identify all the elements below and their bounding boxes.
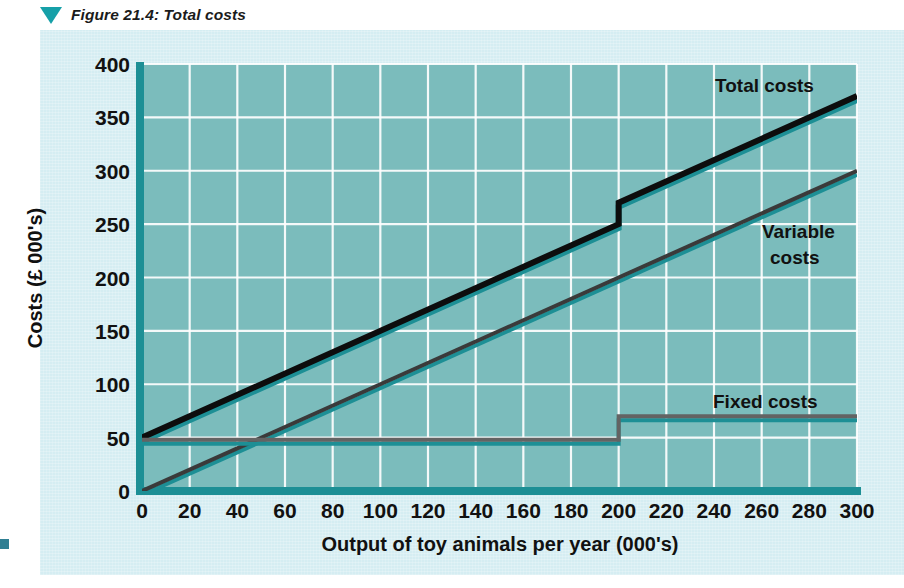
y-tick-label-300: 300: [95, 160, 130, 183]
x-tick-label-0: 0: [136, 499, 148, 522]
series-label-variable-costs-line1: Variable: [762, 221, 835, 242]
x-axis-tick-labels: 0204060801001201401601802002202402602803…: [136, 499, 874, 522]
x-tick-label-180: 180: [553, 499, 588, 522]
x-tick-label-240: 240: [696, 499, 731, 522]
x-tick-label-200: 200: [601, 499, 636, 522]
series-label-fixed-costs: Fixed costs: [713, 391, 818, 412]
y-tick-label-0: 0: [118, 480, 130, 503]
x-tick-label-280: 280: [792, 499, 827, 522]
y-tick-label-350: 350: [95, 106, 130, 129]
x-tick-label-140: 140: [458, 499, 493, 522]
y-axis-tick-labels: 050100150200250300350400: [95, 53, 130, 503]
x-tick-label-120: 120: [410, 499, 445, 522]
y-tick-label-400: 400: [95, 53, 130, 76]
series-label-variable-costs-line2: costs: [770, 247, 820, 268]
y-tick-label-200: 200: [95, 267, 130, 290]
x-axis-line: [136, 487, 861, 495]
y-tick-label-50: 50: [107, 427, 130, 450]
x-tick-label-60: 60: [273, 499, 296, 522]
x-tick-label-260: 260: [744, 499, 779, 522]
y-axis-title: Costs (£ 000's): [24, 208, 46, 348]
y-tick-label-100: 100: [95, 373, 130, 396]
x-tick-label-220: 220: [649, 499, 684, 522]
x-tick-label-160: 160: [506, 499, 541, 522]
x-tick-label-80: 80: [321, 499, 344, 522]
y-axis-line: [136, 62, 144, 493]
y-tick-label-150: 150: [95, 320, 130, 343]
y-tick-label-250: 250: [95, 213, 130, 236]
x-tick-label-300: 300: [839, 499, 874, 522]
x-tick-label-100: 100: [363, 499, 398, 522]
chart-canvas: 0204060801001201401601802002202402602803…: [0, 0, 904, 588]
x-tick-label-20: 20: [178, 499, 201, 522]
x-axis-title: Output of toy animals per year (000's): [321, 533, 678, 555]
x-tick-label-40: 40: [226, 499, 249, 522]
series-label-total-costs: Total costs: [715, 75, 814, 96]
